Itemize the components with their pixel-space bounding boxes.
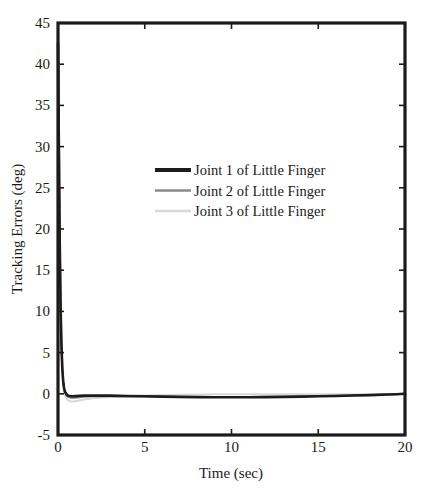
tracking-errors-chart: 05101520-5051015202530354045 Time (sec) … (0, 0, 432, 499)
y-tick-label--5: -5 (38, 427, 51, 443)
x-tick-label-10: 10 (224, 439, 239, 455)
legend-label-joint-1: Joint 1 of Little Finger (194, 162, 325, 178)
y-tick-label-20: 20 (35, 221, 50, 237)
chart-background (0, 0, 432, 499)
y-tick-label-40: 40 (35, 56, 50, 72)
y-axis-title: Tracking Errors (deg) (9, 164, 26, 294)
y-tick-label-5: 5 (43, 345, 51, 361)
y-tick-label-10: 10 (35, 303, 50, 319)
x-axis-title: Time (sec) (199, 465, 263, 482)
chart-legend: Joint 1 of Little FingerJoint 2 of Littl… (155, 162, 325, 219)
y-tick-label-15: 15 (35, 262, 50, 278)
y-tick-label-45: 45 (35, 15, 50, 31)
y-tick-label-0: 0 (43, 386, 51, 402)
y-tick-label-30: 30 (35, 139, 50, 155)
x-tick-label-5: 5 (141, 439, 149, 455)
legend-label-joint-2: Joint 2 of Little Finger (194, 183, 325, 199)
y-tick-label-35: 35 (35, 97, 50, 113)
legend-label-joint-3: Joint 3 of Little Finger (194, 203, 325, 219)
x-tick-label-20: 20 (398, 439, 413, 455)
x-tick-label-15: 15 (311, 439, 326, 455)
y-tick-label-25: 25 (35, 180, 50, 196)
figure-container: 05101520-5051015202530354045 Time (sec) … (0, 0, 432, 499)
x-tick-label-0: 0 (54, 439, 62, 455)
